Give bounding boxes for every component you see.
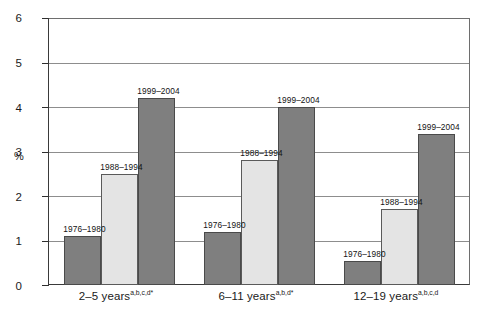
group-label-2-5-years: 2–5 yearsa,b,c,d* [51, 290, 181, 302]
bar-g1-s3[interactable] [138, 98, 175, 285]
bar-g3-s2[interactable] [381, 209, 418, 285]
group-label-6-11-years: 6–11 yearsa,b,d* [191, 290, 321, 302]
group-footnote-2: a,b,d* [276, 289, 294, 296]
bars-layer: 1976–1980 1988–1994 1999–2004 1976–1980 … [48, 18, 470, 285]
bar-label-g3-s3: 1999–2004 [401, 123, 476, 132]
y-tick-label-1: 1 [0, 236, 22, 248]
y-tick-label-6: 6 [0, 13, 22, 25]
bar-label-g3-s1: 1976–1980 [327, 250, 402, 259]
group-footnote-1: a,b,c,d* [130, 289, 153, 296]
bar-g3-s3[interactable] [418, 134, 455, 285]
bar-label-g2-s3: 1999–2004 [261, 96, 336, 105]
bar-g1-s1[interactable] [64, 236, 101, 285]
y-tick-label-3: 3 [0, 147, 22, 159]
bar-label-g1-s1: 1976–1980 [47, 225, 122, 234]
bar-label-g1-s3: 1999–2004 [121, 87, 196, 96]
group-label-12-19-years: 12–19 yearsa,b,c,d [331, 290, 461, 302]
bar-chart: % 0 1 2 3 4 5 6 1976–1980 1988–1994 1999 [0, 0, 491, 319]
bar-label-g2-s1: 1976–1980 [187, 221, 262, 230]
y-tick-label-2: 2 [0, 192, 22, 204]
bar-g2-s1[interactable] [204, 232, 241, 285]
group-footnote-3: a,b,c,d [418, 289, 438, 296]
bar-label-g3-s2: 1988–1994 [364, 198, 439, 207]
bar-g3-s1[interactable] [344, 261, 381, 286]
group-label-text-3: 12–19 years [354, 290, 418, 302]
group-label-text-2: 6–11 years [219, 290, 276, 302]
bar-label-g2-s2: 1988–1994 [224, 149, 299, 158]
y-tick-label-5: 5 [0, 58, 22, 70]
bar-label-g1-s2: 1988–1994 [84, 163, 159, 172]
y-tick-label-4: 4 [0, 103, 22, 115]
group-label-text-1: 2–5 years [79, 290, 130, 302]
bar-g2-s3[interactable] [278, 107, 315, 285]
y-tick-label-0: 0 [0, 281, 22, 293]
